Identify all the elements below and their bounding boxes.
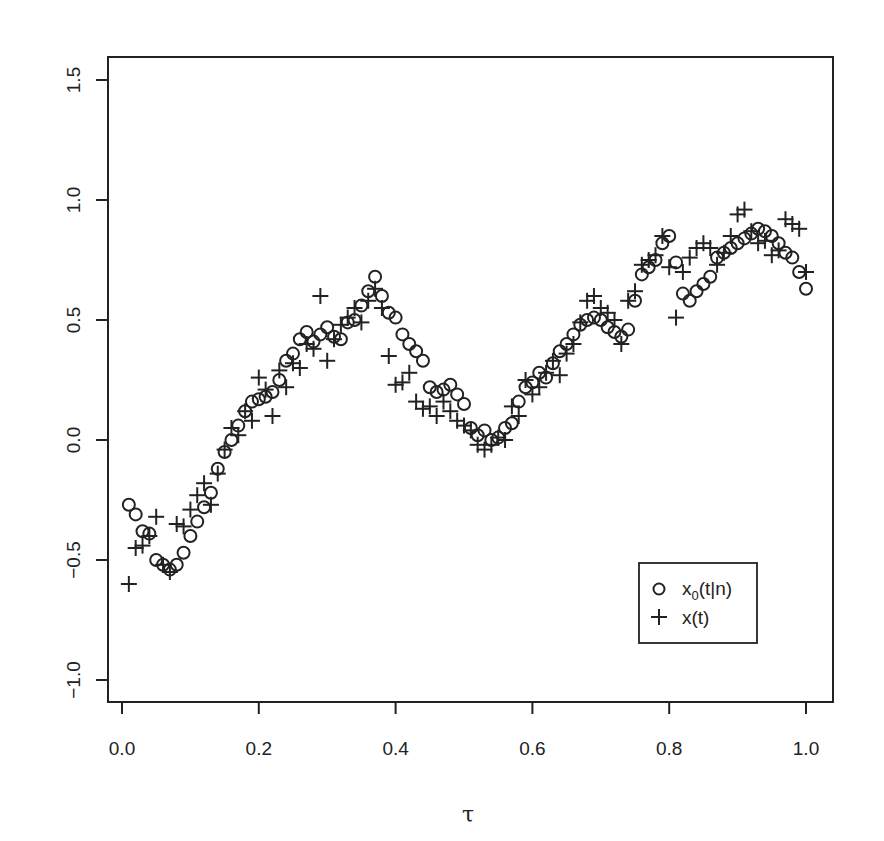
- plus-point: [504, 398, 520, 414]
- data-points: [121, 202, 814, 592]
- plus-point: [244, 413, 260, 429]
- plus-point: [128, 540, 144, 556]
- plus-point: [388, 377, 404, 393]
- circle-point: [184, 530, 196, 542]
- plus-point: [367, 281, 383, 297]
- plus-point: [723, 228, 739, 244]
- plus-point: [497, 432, 513, 448]
- plus-point: [121, 576, 137, 592]
- plus-point: [176, 518, 192, 534]
- x-tick-label: 0.0: [109, 738, 135, 759]
- legend-label-x: x(t): [682, 607, 709, 628]
- plus-point: [237, 403, 253, 419]
- circle-point: [458, 398, 470, 410]
- circle-point: [691, 285, 703, 297]
- circle-point: [697, 278, 709, 290]
- plus-point: [668, 310, 684, 326]
- circle-point: [554, 345, 566, 357]
- plus-point: [223, 420, 239, 436]
- x-tick-label: 0.2: [246, 738, 272, 759]
- plus-point: [429, 408, 445, 424]
- plus-point: [148, 509, 164, 525]
- circle-point: [198, 501, 210, 513]
- circle-point: [246, 396, 258, 408]
- x-axis-label: τ: [462, 802, 474, 827]
- circle-point: [800, 283, 812, 295]
- scatter-chart: −1.0−0.50.00.51.01.5 0.00.20.40.60.81.0 …: [0, 0, 884, 841]
- y-tick-label: 0.0: [63, 427, 84, 453]
- plus-point: [606, 312, 622, 328]
- circle-point: [314, 328, 326, 340]
- circle-point: [191, 516, 203, 528]
- plus-point: [716, 245, 732, 261]
- plus-point: [435, 394, 451, 410]
- plus-point: [415, 401, 431, 417]
- circle-point: [130, 508, 142, 520]
- plus-point: [347, 300, 363, 316]
- circle-point: [253, 393, 265, 405]
- circle-point: [622, 324, 634, 336]
- circle-point: [280, 355, 292, 367]
- x-axis: 0.00.20.40.60.81.0: [109, 702, 819, 759]
- plus-point: [264, 408, 280, 424]
- plus-point: [675, 264, 691, 280]
- circle-point: [704, 271, 716, 283]
- circle-point: [178, 547, 190, 559]
- legend: x0(t|n) x(t): [639, 563, 757, 643]
- plus-point: [319, 353, 335, 369]
- plus-point: [422, 398, 438, 414]
- circle-point: [677, 288, 689, 300]
- circle-point: [588, 312, 600, 324]
- x-tick-label: 0.8: [656, 738, 682, 759]
- x-tick-label: 0.6: [519, 738, 545, 759]
- plus-point: [661, 259, 677, 275]
- plus-point: [155, 557, 171, 573]
- y-tick-label: −0.5: [63, 541, 84, 579]
- plus-point: [524, 386, 540, 402]
- plus-point: [682, 250, 698, 266]
- plus-point: [353, 314, 369, 330]
- y-tick-label: 1.0: [63, 187, 84, 213]
- plus-point: [511, 408, 527, 424]
- x-tick-label: 1.0: [793, 738, 819, 759]
- plus-point: [169, 516, 185, 532]
- x-tick-label: 0.4: [382, 738, 409, 759]
- legend-box: [639, 563, 757, 643]
- plus-point: [401, 365, 417, 381]
- plus-point: [531, 379, 547, 395]
- plus-point: [394, 374, 410, 390]
- plus-point: [203, 497, 219, 513]
- plus-point: [278, 379, 294, 395]
- circle-point: [417, 355, 429, 367]
- plus-point: [408, 394, 424, 410]
- plus-point: [251, 370, 267, 386]
- plus-point: [381, 348, 397, 364]
- plus-point: [374, 300, 390, 316]
- y-axis: −1.0−0.50.00.51.01.5: [63, 67, 108, 699]
- plus-point: [196, 475, 212, 491]
- plus-point: [312, 288, 328, 304]
- y-tick-label: 0.5: [63, 307, 84, 333]
- y-tick-label: 1.5: [63, 67, 84, 93]
- y-tick-label: −1.0: [63, 661, 84, 699]
- plus-point: [490, 430, 506, 446]
- circle-point: [403, 338, 415, 350]
- plus-point: [442, 403, 458, 419]
